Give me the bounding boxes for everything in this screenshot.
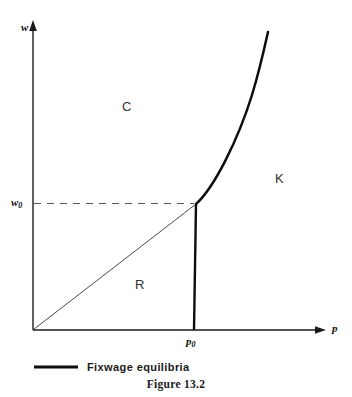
fixwage-equilibria-curve [196,32,268,204]
y-axis-arrowhead-icon [29,20,37,31]
figure-plot-area [0,0,352,397]
legend: Fixwage equilibria [33,358,190,376]
legend-label: Fixwage equilibria [87,361,190,373]
legend-swatch-icon [33,362,79,372]
region-label-c: C [122,100,131,113]
y-axis-tick-label-w0: w0 [11,197,22,210]
fixwage-vertical-segment [194,204,196,330]
wage-price-ray [34,204,197,330]
figure-caption: Figure 13.2 [0,378,352,390]
x-axis-label: p [332,323,338,334]
x-tick-subscript: 0 [192,340,196,349]
region-label-k: K [275,172,284,185]
y-tick-subscript: 0 [18,201,22,210]
region-label-r: R [135,278,144,291]
y-axis-label: w [21,22,28,33]
x-axis-arrowhead-icon [315,326,326,334]
x-axis-tick-label-p0: p0 [186,336,196,349]
figure-container: w p w0 p0 C K R Fixwage equilibria Figur… [0,0,352,397]
